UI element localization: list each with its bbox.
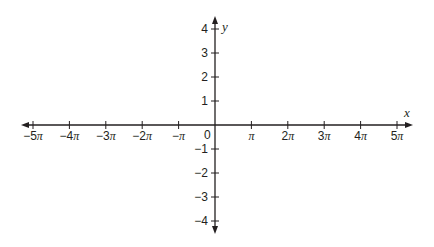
y-tick-label: 4 [201, 22, 208, 36]
y-axis-label: y [220, 19, 228, 34]
y-axis-down-arrow-icon [212, 226, 218, 234]
x-tick-label: 5π [391, 129, 405, 143]
x-tick-label: 2π [281, 129, 295, 143]
x-axis-right-arrow-icon [405, 122, 413, 128]
y-tick-label: 2 [201, 70, 208, 84]
x-tick-label: −2π [132, 129, 153, 143]
x-tick-label: −π [172, 129, 186, 143]
x-tick-label: −5π [23, 129, 44, 143]
y-tick-label: −4 [194, 214, 208, 228]
axes [21, 16, 413, 234]
x-tick-label: π [248, 129, 255, 143]
y-tick-label: −1 [194, 142, 208, 156]
coordinate-plane: −5π−4π−3π−2π−ππ2π3π4π5π 4321−1−2−3−4 x y… [0, 0, 434, 247]
y-axis-up-arrow-icon [212, 16, 218, 24]
y-tick-label: 3 [201, 46, 208, 60]
x-axis-label: x [403, 105, 410, 120]
y-tick-label: 1 [201, 94, 208, 108]
x-tick-label: 3π [318, 129, 332, 143]
x-axis-ticks: −5π−4π−3π−2π−ππ2π3π4π5π [23, 121, 404, 143]
x-tick-label: 4π [354, 129, 368, 143]
x-axis-left-arrow-icon [21, 122, 29, 128]
y-tick-label: −3 [194, 190, 208, 204]
y-tick-label: −2 [194, 166, 208, 180]
x-tick-label: −4π [60, 129, 81, 143]
origin-label: 0 [204, 128, 211, 142]
x-tick-label: −3π [96, 129, 117, 143]
